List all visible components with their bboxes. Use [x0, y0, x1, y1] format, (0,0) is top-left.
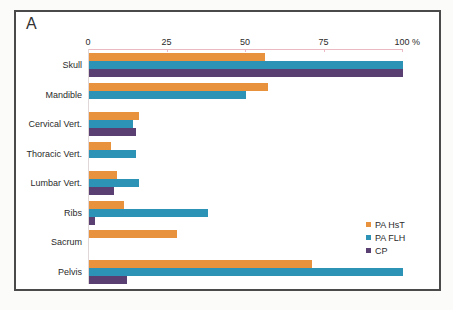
- bar-pa-hst-cervical-vert-: [89, 112, 139, 120]
- bar-pa-hst-skull: [89, 53, 265, 61]
- bar-pa-flh-thoracic-vert-: [89, 150, 136, 158]
- legend-swatch-icon: [366, 222, 371, 227]
- category-label: Thoracic Vert.: [16, 149, 82, 159]
- bar-pa-flh-ribs: [89, 209, 208, 217]
- axis-tick-mark: [324, 49, 325, 52]
- bar-pa-hst-mandible: [89, 83, 268, 91]
- bar-pa-flh-lumbar-vert-: [89, 179, 139, 187]
- axis-tick-label: 75: [318, 37, 328, 47]
- legend: PA HsTPA FLHCP: [366, 220, 405, 255]
- bar-pa-hst-thoracic-vert-: [89, 142, 111, 150]
- chart-frame: A 0255075100%SkullMandibleCervical Vert.…: [14, 10, 441, 291]
- category-label: Skull: [16, 60, 82, 70]
- category-label: Pelvis: [16, 267, 82, 277]
- axis-tick-label: 0: [85, 37, 90, 47]
- legend-swatch-icon: [366, 235, 371, 240]
- legend-label: PA FLH: [375, 233, 405, 243]
- bar-pa-flh-mandible: [89, 91, 246, 99]
- bar-pa-hst-sacrum: [89, 230, 177, 238]
- legend-swatch-icon: [366, 248, 371, 253]
- category-label: Cervical Vert.: [16, 119, 82, 129]
- axis-tick-mark: [167, 49, 168, 52]
- bar-pa-hst-lumbar-vert-: [89, 171, 117, 179]
- axis-tick-mark: [402, 49, 403, 52]
- bar-pa-hst-pelvis: [89, 260, 312, 268]
- bar-pa-hst-ribs: [89, 201, 124, 209]
- bar-cp-lumbar-vert-: [89, 187, 114, 195]
- legend-label: PA HsT: [375, 220, 405, 230]
- axis-tick-label: 25: [161, 37, 171, 47]
- category-label: Mandible: [16, 90, 82, 100]
- bar-pa-flh-pelvis: [89, 268, 403, 276]
- axis-tick-mark: [245, 49, 246, 52]
- axis-tick-label: 100: [394, 37, 409, 47]
- legend-item-cp: CP: [366, 246, 405, 255]
- bar-cp-skull: [89, 69, 403, 77]
- category-label: Sacrum: [16, 237, 82, 247]
- axis-unit-label: %: [412, 37, 420, 47]
- bar-cp-pelvis: [89, 276, 127, 284]
- chart-area: 0255075100%SkullMandibleCervical Vert.Th…: [16, 12, 439, 289]
- axis-tick-label: 50: [240, 37, 250, 47]
- bar-pa-flh-skull: [89, 61, 403, 69]
- bar-cp-cervical-vert-: [89, 128, 136, 136]
- category-label: Ribs: [16, 208, 82, 218]
- legend-item-pa-flh: PA FLH: [366, 233, 405, 242]
- bar-cp-ribs: [89, 217, 95, 225]
- legend-item-pa-hst: PA HsT: [366, 220, 405, 229]
- category-label: Lumbar Vert.: [16, 178, 82, 188]
- bar-pa-flh-cervical-vert-: [89, 120, 133, 128]
- page: A 0255075100%SkullMandibleCervical Vert.…: [0, 0, 453, 310]
- legend-label: CP: [375, 246, 388, 256]
